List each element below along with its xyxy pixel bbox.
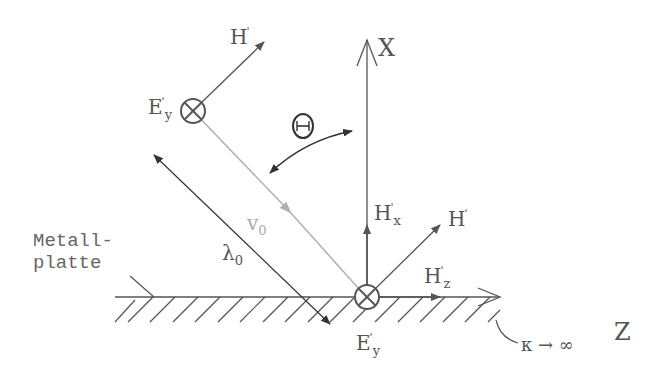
surface-hz-base: H	[424, 264, 441, 288]
incident-e-sub: y	[165, 107, 172, 122]
surface-hz-label: H'z	[424, 265, 450, 290]
velocity-vector	[193, 111, 290, 212]
surface-hx-label: H'x	[374, 202, 401, 227]
surface-e-label: E'y	[356, 332, 380, 357]
surface-e-sub: y	[373, 343, 380, 358]
incident-h-vector	[201, 42, 264, 103]
incident-e-base: E	[148, 95, 163, 119]
wavelength-label: λ0	[222, 243, 243, 267]
surface-hx-base: H	[374, 201, 391, 225]
velocity-sub: 0	[258, 223, 266, 238]
surface-e-base: E	[356, 331, 371, 355]
theta-angle-arc	[270, 131, 352, 173]
incident-e-label: E'y	[148, 96, 172, 121]
incident-h-label: H'	[230, 26, 249, 47]
surface-e-into-page-icon	[355, 285, 379, 309]
surface-h-label: H'	[448, 208, 467, 229]
surface-h-base: H	[448, 207, 465, 231]
metal-plate-label: Metall- platte	[33, 230, 113, 274]
wavelength-sub: 0	[235, 253, 243, 268]
surface-hx-sub: x	[393, 213, 400, 228]
surface-hz-sub: z	[443, 276, 450, 291]
surface-h-sup: '	[464, 207, 467, 220]
incident-h-base: H	[230, 25, 247, 49]
diagram-canvas	[0, 0, 659, 378]
z-axis-label: Z	[614, 320, 631, 344]
metal-plate-hatching	[115, 297, 500, 322]
velocity-continuation	[290, 212, 360, 290]
incident-e-into-page-icon	[181, 99, 205, 123]
theta-symbol-icon	[293, 114, 313, 138]
incident-h-sup: '	[246, 25, 249, 38]
metal-plate-line1: Metall-	[33, 230, 113, 252]
metal-plate-line2: platte	[33, 252, 113, 274]
velocity-base: v	[247, 211, 258, 235]
metal-plate-leader	[130, 276, 154, 297]
x-axis-label: X	[378, 36, 395, 60]
conductivity-label: κ → ∞	[521, 336, 574, 354]
velocity-label: v0	[247, 213, 267, 237]
wavelength-base: λ	[222, 241, 235, 265]
kappa-leader	[496, 320, 518, 343]
